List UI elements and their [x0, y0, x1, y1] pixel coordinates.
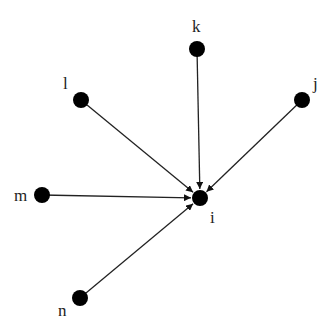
node-l — [73, 92, 89, 108]
directed-graph: ikljmn — [0, 0, 335, 325]
node-label-j: j — [312, 74, 318, 93]
nodes — [34, 41, 310, 306]
node-label-m: m — [14, 186, 27, 205]
edges — [42, 49, 302, 298]
node-i — [192, 190, 208, 206]
node-j — [294, 92, 310, 108]
labels: ikljmn — [14, 17, 318, 320]
node-label-l: l — [63, 74, 68, 93]
node-label-n: n — [58, 301, 67, 320]
node-k — [189, 41, 205, 57]
node-n — [72, 290, 88, 306]
edge-m-i — [42, 195, 191, 198]
edge-j-i — [206, 100, 302, 192]
node-label-i: i — [210, 208, 215, 227]
edge-l-i — [81, 100, 193, 192]
edge-k-i — [197, 49, 200, 189]
edge-n-i — [80, 204, 193, 298]
node-label-k: k — [192, 17, 201, 36]
node-m — [34, 187, 50, 203]
